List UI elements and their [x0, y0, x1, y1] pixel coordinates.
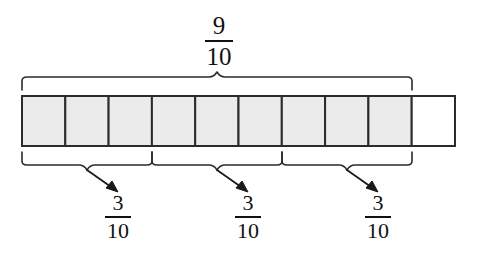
bar-cell-2: [65, 96, 108, 146]
group-fraction-denominator-1: 10: [95, 220, 141, 242]
bar-cell-9: [368, 96, 411, 146]
group-fraction-numerator-1: 3: [95, 192, 141, 214]
group-fraction-label-3: 3 10: [355, 192, 401, 242]
group-fraction-numerator-2: 3: [225, 192, 271, 214]
bar-cell-1: [22, 96, 65, 146]
figure-canvas: 9 10 3 10 3 10 3 10: [0, 0, 479, 254]
group-fraction-denominator-2: 10: [225, 220, 271, 242]
bar-cell-4: [152, 96, 195, 146]
total-fraction-bar: [205, 40, 233, 42]
bar-cell-6: [239, 96, 282, 146]
bar-cell-3: [109, 96, 152, 146]
total-fraction-numerator: 9: [196, 13, 242, 38]
group-fraction-label-1: 3 10: [95, 192, 141, 242]
bottom-brace-1: [22, 152, 152, 170]
bottom-arrow-1: [87, 170, 118, 192]
bottom-arrow-2: [217, 170, 248, 192]
group-fraction-label-2: 3 10: [225, 192, 271, 242]
group-fraction-numerator-3: 3: [355, 192, 401, 214]
bar-cell-5: [195, 96, 238, 146]
bottom-arrow-3: [347, 170, 378, 192]
total-fraction-label: 9 10: [196, 13, 242, 69]
top-brace: [22, 72, 412, 90]
bottom-brace-2: [152, 152, 282, 170]
bar-group: [22, 96, 455, 146]
group-fraction-denominator-3: 10: [355, 220, 401, 242]
bar-cell-10: [412, 96, 455, 146]
total-fraction-denominator: 10: [196, 44, 242, 69]
bar-cell-8: [325, 96, 368, 146]
bar-cell-7: [282, 96, 325, 146]
bottom-brace-3: [282, 152, 412, 170]
